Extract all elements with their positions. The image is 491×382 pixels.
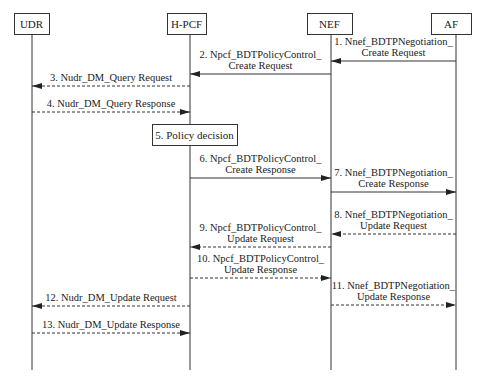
message-label: 10. Npcf_BDTPolicyControl_	[197, 253, 325, 264]
message-13: 13. Nudr_DM_Update Response	[32, 319, 190, 333]
message-label: Update Response	[357, 291, 431, 302]
message-label: Create Request	[229, 60, 293, 71]
participant-label: AF	[444, 18, 458, 30]
message-label: Create Request	[362, 47, 426, 58]
message-label: 9. Npcf_BDTPolicyControl_	[200, 222, 323, 233]
message-label: 8. Nnef_BDTPNegotiation_	[334, 209, 453, 220]
participant-nef: NEF	[308, 14, 353, 35]
message-label: 13. Nudr_DM_Update Response	[42, 319, 180, 330]
message-label: 3. Nudr_DM_Query Request	[50, 72, 172, 83]
participant-hpcf: H-PCF	[168, 14, 207, 35]
participant-label: NEF	[319, 18, 340, 30]
note-label: 5. Policy decision	[155, 129, 234, 141]
message-label: Create Response	[358, 178, 429, 189]
sequence-diagram: UDRH-PCFNEFAF 5. Policy decision 1. Nnef…	[0, 0, 491, 382]
message-label: 7. Nnef_BDTPNegotiation_	[334, 167, 453, 178]
message-label: Update Response	[224, 264, 298, 275]
participant-label: UDR	[20, 18, 44, 30]
message-9: 9. Npcf_BDTPolicyControl_Update Request	[190, 222, 331, 247]
policy-decision-note: 5. Policy decision	[153, 125, 238, 146]
participant-label: H-PCF	[171, 18, 202, 30]
messages: 1. Nnef_BDTPNegotiation_Create Request2.…	[32, 36, 456, 333]
message-label: Update Request	[360, 220, 427, 231]
message-10: 10. Npcf_BDTPolicyControl_Update Respons…	[190, 253, 331, 278]
message-label: 11. Nnef_BDTPNegotiation_	[332, 280, 456, 291]
message-label: 1. Nnef_BDTPNegotiation_	[334, 36, 453, 47]
message-3: 3. Nudr_DM_Query Request	[32, 72, 190, 86]
message-11: 11. Nnef_BDTPNegotiation_Update Response	[331, 280, 456, 305]
message-label: 12. Nudr_DM_Update Request	[45, 292, 177, 303]
message-6: 6. Npcf_BDTPolicyControl_Create Response	[190, 153, 331, 178]
participant-af: AF	[432, 14, 472, 35]
message-label: 6. Npcf_BDTPolicyControl_	[200, 153, 323, 164]
message-label: Create Response	[225, 164, 296, 175]
message-label: 2. Npcf_BDTPolicyControl_	[200, 49, 323, 60]
message-12: 12. Nudr_DM_Update Request	[32, 292, 190, 306]
message-label: Update Request	[227, 233, 294, 244]
message-1: 1. Nnef_BDTPNegotiation_Create Request	[331, 36, 456, 61]
participants: UDRH-PCFNEFAF	[15, 14, 472, 35]
message-label: 4. Nudr_DM_Query Response	[47, 98, 176, 109]
message-2: 2. Npcf_BDTPolicyControl_Create Request	[190, 49, 331, 74]
message-8: 8. Nnef_BDTPNegotiation_Update Request	[331, 209, 456, 234]
participant-udr: UDR	[15, 14, 50, 35]
message-4: 4. Nudr_DM_Query Response	[32, 98, 190, 112]
message-7: 7. Nnef_BDTPNegotiation_Create Response	[331, 167, 456, 192]
